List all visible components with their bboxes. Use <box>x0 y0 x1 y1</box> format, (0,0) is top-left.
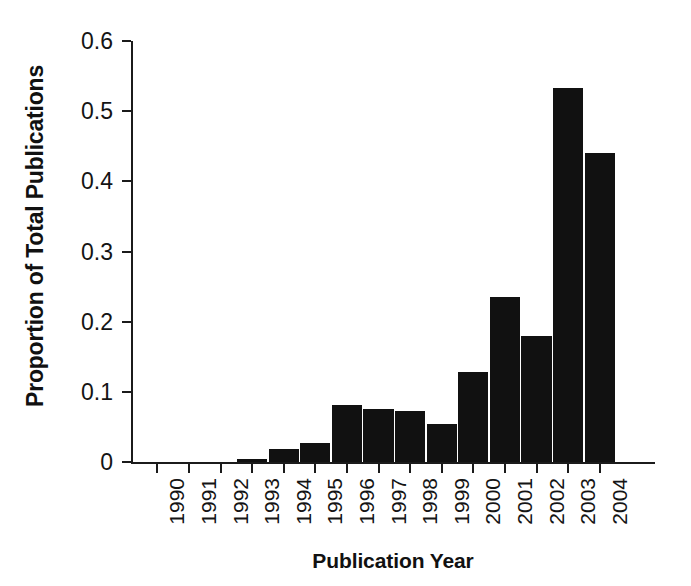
y-axis-tick-label: 0 <box>100 449 113 476</box>
x-axis-tick <box>599 464 601 473</box>
bar <box>521 336 551 462</box>
x-axis-tick-label: 2001 <box>513 478 537 525</box>
bar <box>553 88 583 462</box>
y-axis-tick <box>122 110 131 112</box>
y-axis-line <box>131 41 133 463</box>
x-axis-tick <box>441 464 443 473</box>
plot-area: 00.10.20.30.40.50.6 19901991199219931994… <box>131 41 655 462</box>
bar <box>269 449 299 462</box>
y-axis-title: Proportion of Total Publications <box>12 6 58 466</box>
x-axis-tick <box>188 464 190 473</box>
x-axis-tick <box>504 464 506 473</box>
y-axis-tick-label: 0.6 <box>81 28 113 55</box>
bar <box>458 372 488 462</box>
y-axis-tick <box>122 40 131 42</box>
x-axis-tick-label: 1992 <box>229 478 253 525</box>
y-axis-tick-label: 0.5 <box>81 98 113 125</box>
y-axis-tick-label: 0.2 <box>81 308 113 335</box>
x-axis-tick-label: 2003 <box>576 478 600 525</box>
x-axis-tick <box>567 464 569 473</box>
x-axis-line <box>131 462 655 464</box>
x-axis-tick-label: 1997 <box>387 478 411 525</box>
x-axis-tick-label: 2000 <box>481 478 505 525</box>
x-axis-tick-label: 1995 <box>323 478 347 525</box>
x-axis-tick-label: 1991 <box>197 478 221 525</box>
bar <box>585 153 615 462</box>
y-axis-tick-label: 0.3 <box>81 238 113 265</box>
x-axis-tick-label: 1993 <box>260 478 284 525</box>
x-axis-tick-label: 1996 <box>355 478 379 525</box>
bar-chart-figure: Proportion of Total Publications 00.10.2… <box>0 0 691 586</box>
bar <box>332 405 362 462</box>
bar <box>237 459 267 462</box>
bar <box>300 443 330 462</box>
x-axis-tick-label: 2002 <box>545 478 569 525</box>
x-axis-tick-label: 1998 <box>418 478 442 525</box>
x-axis-tick <box>251 464 253 473</box>
y-axis-tick <box>122 321 131 323</box>
y-axis-tick-label: 0.1 <box>81 378 113 405</box>
bar <box>490 297 520 462</box>
x-axis-tick <box>346 464 348 473</box>
x-axis-tick-label: 1999 <box>450 478 474 525</box>
x-axis-tick <box>220 464 222 473</box>
x-axis-tick <box>283 464 285 473</box>
y-axis-tick <box>122 391 131 393</box>
x-axis-tick <box>536 464 538 473</box>
x-axis-tick-label: 1994 <box>292 478 316 525</box>
bar <box>395 411 425 462</box>
x-axis-tick <box>378 464 380 473</box>
y-axis-tick <box>122 180 131 182</box>
x-axis-tick-label: 2004 <box>608 478 632 525</box>
y-axis-tick-label: 0.4 <box>81 168 113 195</box>
x-axis-tick-label: 1990 <box>165 478 189 525</box>
x-axis-tick <box>156 464 158 473</box>
x-axis-title: Publication Year <box>131 549 655 573</box>
x-axis-tick <box>314 464 316 473</box>
x-axis-tick <box>472 464 474 473</box>
bar <box>427 424 457 462</box>
bar <box>363 409 393 462</box>
x-axis-tick <box>409 464 411 473</box>
y-axis-tick <box>122 251 131 253</box>
y-axis-tick <box>122 461 131 463</box>
